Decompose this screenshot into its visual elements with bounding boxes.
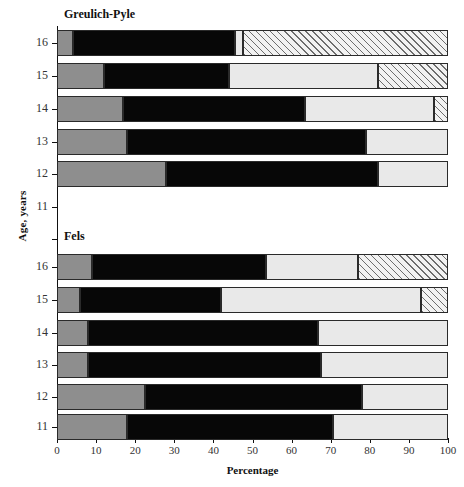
panel-title-fels: Fels — [64, 229, 85, 244]
bar-segment-segment-3-light-gray — [362, 384, 448, 410]
y-axis-tick-label: 15 — [18, 68, 48, 83]
bar-segment-segment-3-light-gray — [378, 161, 448, 187]
bar-segment-segment-3-light-gray — [305, 96, 434, 122]
y-axis-tick-label: 16 — [18, 259, 48, 274]
y-axis-tick — [52, 267, 57, 268]
bar-segment-segment-3-light-gray — [266, 254, 358, 280]
x-axis-tick-label: 20 — [120, 444, 150, 456]
panel-title-greulich-pyle: Greulich-Pyle — [64, 7, 135, 22]
bar-segment-segment-2-black — [104, 63, 229, 89]
x-axis-tick-label: 90 — [394, 444, 424, 456]
bar-segment-segment-1-dark-gray — [57, 30, 73, 56]
bar-row — [57, 129, 448, 155]
bar-segment-segment-1-dark-gray — [57, 287, 80, 313]
bar-row — [57, 30, 448, 56]
y-axis-tick-label: 16 — [18, 35, 48, 50]
bar-segment-segment-4-hatched — [243, 30, 448, 56]
x-axis-tick-label: 50 — [238, 444, 268, 456]
y-axis-tick — [52, 207, 57, 208]
y-axis-tick — [52, 76, 57, 77]
bar-segment-segment-2-black — [88, 352, 321, 378]
y-axis-tick — [52, 43, 57, 44]
bar-segment-segment-3-light-gray — [333, 414, 448, 440]
y-axis-tick-label: 14 — [18, 325, 48, 340]
y-axis-tick — [52, 239, 57, 240]
bar-row — [57, 254, 448, 280]
bar-segment-segment-1-dark-gray — [57, 161, 166, 187]
bar-segment-segment-3-light-gray — [366, 129, 448, 155]
bar-segment-segment-1-dark-gray — [57, 320, 88, 346]
stacked-bar-chart: Age, years Percentage Greulich-Pyle Fels… — [0, 0, 464, 487]
bar-segment-segment-4-hatched — [421, 287, 448, 313]
x-axis-tick-label: 0 — [42, 444, 72, 456]
bar-segment-segment-3-light-gray — [221, 287, 420, 313]
y-axis-tick — [52, 365, 57, 366]
y-axis-tick — [52, 397, 57, 398]
bar-segment-segment-1-dark-gray — [57, 384, 145, 410]
bar-segment-segment-1-dark-gray — [57, 352, 88, 378]
y-axis-tick-label: 12 — [18, 389, 48, 404]
bar-segment-segment-4-hatched — [358, 254, 448, 280]
bar-segment-segment-2-black — [88, 320, 318, 346]
bar-segment-segment-3-light-gray — [321, 352, 448, 378]
x-axis-tick-label: 30 — [159, 444, 189, 456]
x-axis-tick-label: 70 — [316, 444, 346, 456]
x-axis-title: Percentage — [57, 464, 448, 476]
y-axis-tick — [52, 427, 57, 428]
x-axis-tick-label: 100 — [433, 444, 463, 456]
y-axis-tick-label: 11 — [18, 199, 48, 214]
y-axis-tick-label: 12 — [18, 166, 48, 181]
bar-segment-segment-1-dark-gray — [57, 254, 92, 280]
bar-segment-segment-3-light-gray — [229, 63, 378, 89]
bar-segment-segment-2-black — [145, 384, 362, 410]
x-axis-tick — [448, 438, 449, 443]
x-axis-tick-label: 10 — [81, 444, 111, 456]
bar-row — [57, 384, 448, 410]
bar-segment-segment-3-light-gray — [318, 320, 448, 346]
bar-segment-segment-2-black — [123, 96, 305, 122]
bar-row — [57, 352, 448, 378]
bar-segment-segment-1-dark-gray — [57, 129, 127, 155]
bar-segment-segment-2-black — [73, 30, 235, 56]
x-axis-tick-label: 80 — [355, 444, 385, 456]
bar-segment-segment-2-black — [80, 287, 221, 313]
bar-row — [57, 63, 448, 89]
bar-segment-segment-2-black — [127, 414, 332, 440]
y-axis-tick — [52, 142, 57, 143]
y-axis-tick-label: 13 — [18, 134, 48, 149]
y-axis-tick-label: 14 — [18, 101, 48, 116]
bar-segment-segment-3-light-gray — [235, 30, 243, 56]
bar-segment-segment-2-black — [92, 254, 266, 280]
bar-row — [57, 320, 448, 346]
bar-segment-segment-2-black — [127, 129, 366, 155]
bar-segment-segment-1-dark-gray — [57, 63, 104, 89]
y-axis-tick — [52, 333, 57, 334]
y-axis-tick — [52, 174, 57, 175]
y-axis-tick-label: 11 — [18, 419, 48, 434]
bar-row — [57, 414, 448, 440]
bar-row — [57, 96, 448, 122]
bar-segment-segment-4-hatched — [434, 96, 448, 122]
bar-segment-segment-1-dark-gray — [57, 96, 123, 122]
y-axis-tick — [52, 300, 57, 301]
bar-row — [57, 161, 448, 187]
bar-segment-segment-2-black — [166, 161, 377, 187]
y-axis-tick-label: 13 — [18, 357, 48, 372]
y-axis-tick-label: 15 — [18, 292, 48, 307]
bar-row — [57, 287, 448, 313]
bar-segment-segment-1-dark-gray — [57, 414, 127, 440]
y-axis-tick — [52, 109, 57, 110]
bar-segment-segment-4-hatched — [378, 63, 448, 89]
x-axis-tick-label: 40 — [198, 444, 228, 456]
x-axis-tick-label: 60 — [277, 444, 307, 456]
